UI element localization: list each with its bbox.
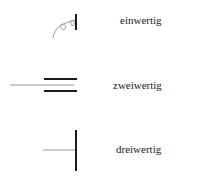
fixed-bar-support-icon [43, 130, 76, 171]
label-einwertig: einwertig [120, 14, 162, 26]
label-dreiwertig: dreiwertig [116, 143, 161, 155]
label-zweiwertig: zweiwertig [113, 79, 162, 91]
double-bar-support-icon [10, 79, 77, 91]
support-types-diagram: einwertig zweiwertig dreiwertig [0, 0, 208, 193]
support-symbols [0, 0, 208, 193]
coil-spring-support-icon [53, 14, 76, 38]
